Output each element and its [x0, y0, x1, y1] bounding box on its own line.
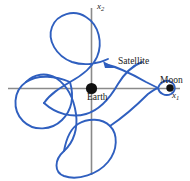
- satellite-trajectory-figure: x2 x1 Satellite Moon Earth: [0, 0, 190, 181]
- x-axis-label: x1: [172, 91, 179, 100]
- y-axis-label-subscript: 2: [101, 5, 104, 12]
- trajectory-plot: [0, 0, 190, 181]
- trajectory-lobe-left-inner: [26, 75, 77, 151]
- satellite-label: Satellite: [118, 57, 149, 67]
- moon-label: Moon: [160, 76, 183, 86]
- trajectory-lobe-upper: [44, 13, 108, 103]
- x-axis-label-subscript: 1: [176, 94, 179, 101]
- trajectory-lobe-lower: [57, 120, 116, 178]
- earth-label: Earth: [87, 93, 108, 103]
- trajectory-branch-lower-right: [110, 88, 158, 126]
- y-axis-label: x2: [97, 2, 104, 11]
